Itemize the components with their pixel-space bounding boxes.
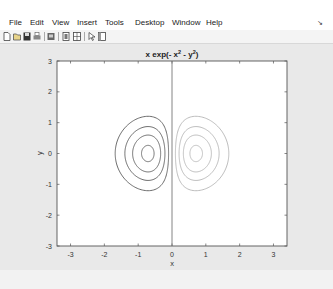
y-tick-label: -3 — [46, 243, 52, 250]
x-tick-label: 3 — [272, 251, 276, 258]
y-tick-label: 0 — [48, 150, 52, 157]
y-tick-label: 2 — [48, 88, 52, 95]
y-axis-label: y — [35, 151, 44, 155]
plot-title: x exp(- x2 - y2) — [146, 49, 199, 59]
y-tick-label: -2 — [46, 212, 52, 219]
y-tick-label: -1 — [46, 181, 52, 188]
contour-plot: x exp(- x2 - y2) -3-2-10123 3210-1-2-3 x… — [0, 0, 333, 289]
x-axis-label: x — [170, 259, 174, 268]
y-tick-label: 1 — [48, 119, 52, 126]
x-tick-label: -3 — [67, 251, 73, 258]
x-tick-label: 2 — [238, 251, 242, 258]
x-tick-label: -2 — [101, 251, 107, 258]
x-tick-label: 0 — [170, 251, 174, 258]
x-tick-label: -1 — [135, 251, 141, 258]
x-tick-label: 1 — [204, 251, 208, 258]
y-tick-label: 3 — [48, 58, 52, 65]
